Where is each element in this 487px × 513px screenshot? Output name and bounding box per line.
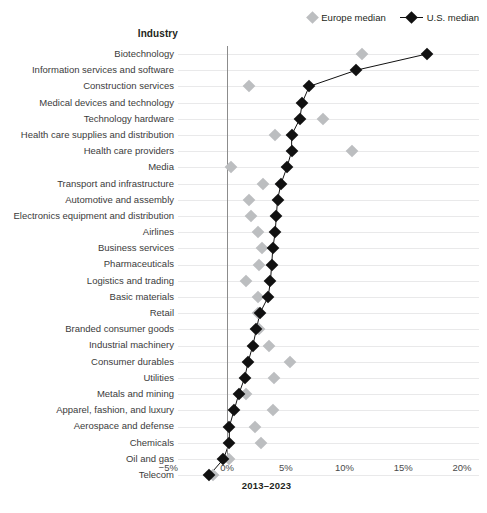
gridline <box>178 394 479 395</box>
x-axis: −5%0%5%10%15%20% <box>0 452 487 476</box>
gridline <box>178 265 479 266</box>
gridline <box>178 151 479 152</box>
x-axis-title: 2013–2023 <box>0 480 487 491</box>
gridline <box>178 232 479 233</box>
gridline <box>178 313 479 314</box>
gridline <box>178 281 479 282</box>
gridline <box>178 54 479 55</box>
chart-root: Europe median U.S. median Industry Biote… <box>0 0 487 513</box>
gridline <box>178 184 479 185</box>
diamond-line-icon <box>400 13 423 22</box>
gridline <box>178 103 479 104</box>
gridline <box>178 86 479 87</box>
gridline <box>178 378 479 379</box>
gridline <box>178 70 479 71</box>
chart-legend: Europe median U.S. median <box>308 12 479 23</box>
gridline <box>178 248 479 249</box>
gridline <box>178 135 479 136</box>
gridline <box>178 216 479 217</box>
gridline <box>178 329 479 330</box>
x-axis-title-text: 2013–2023 <box>196 480 291 491</box>
legend-item-us-median: U.S. median <box>400 12 479 23</box>
gridline <box>178 362 479 363</box>
diamond-icon <box>306 11 319 24</box>
x-axis-tick-label: 10% <box>335 462 354 473</box>
legend-item-europe-median: Europe median <box>308 12 385 23</box>
x-axis-tick-label: 5% <box>279 462 293 473</box>
gridline <box>178 410 479 411</box>
legend-label-us: U.S. median <box>427 12 479 23</box>
x-axis-tick-label: 20% <box>452 462 471 473</box>
gridline <box>178 200 479 201</box>
zero-reference-line <box>227 46 228 456</box>
gridline <box>178 346 479 347</box>
gridline <box>178 167 479 168</box>
legend-label-europe: Europe median <box>321 12 385 23</box>
plot-area <box>0 46 487 450</box>
industry-column-header: Industry <box>0 28 178 39</box>
x-axis-tick-label: −5% <box>159 462 178 473</box>
x-axis-tick-label: 15% <box>394 462 413 473</box>
gridline <box>178 297 479 298</box>
diamond-icon <box>405 11 418 24</box>
